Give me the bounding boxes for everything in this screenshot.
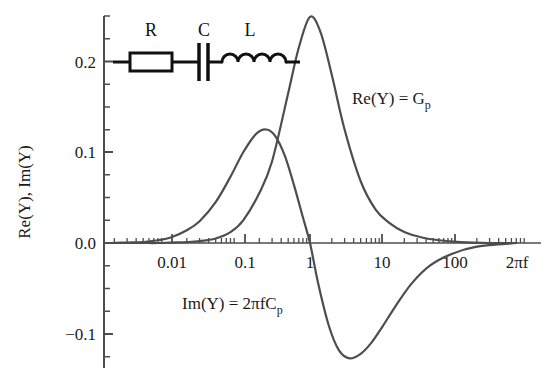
y-tick-label-3: −0.1	[65, 325, 96, 344]
y-tick-label-0: 0.2	[75, 53, 96, 72]
y-tick-label-2: 0.0	[75, 234, 96, 253]
resistor-label: R	[145, 20, 157, 40]
x-tick-label-3: 10	[374, 253, 391, 272]
plot-canvas: 0.2 0.1 0.0 −0.1 Re(Y), Im(Y) 0.01 0.1 1…	[0, 0, 549, 381]
annotation-re-text: Re(Y) = Gp	[352, 89, 431, 112]
capacitor-label: C	[198, 20, 210, 40]
y-axis-title: Re(Y), Im(Y)	[15, 145, 34, 238]
annotation-im-text: Im(Y) = 2πfCp	[182, 294, 283, 317]
inductor-label: L	[245, 20, 256, 40]
y-axis-title-text: Re(Y), Im(Y)	[15, 145, 34, 238]
x-tick-label-1: 0.1	[234, 253, 255, 272]
inductor-symbol	[222, 54, 286, 62]
annotation-im-main: Im(Y) = 2πfC	[182, 294, 277, 313]
annotation-im: Im(Y) = 2πfCp	[182, 294, 283, 317]
figure-root: 0.2 0.1 0.0 −0.1 Re(Y), Im(Y) 0.01 0.1 1…	[0, 0, 549, 381]
x-tick-labels: 0.01 0.1 1 10 100 2πf	[157, 253, 529, 272]
curve-re-y	[111, 16, 516, 243]
circuit-diagram-inset: R C L	[113, 20, 300, 81]
resistor-symbol	[130, 53, 172, 71]
y-tick-labels: 0.2 0.1 0.0 −0.1	[65, 53, 96, 344]
x-tick-label-0: 0.01	[157, 253, 187, 272]
annotation-re: Re(Y) = Gp	[352, 89, 431, 112]
curve-im-y	[111, 129, 516, 358]
annotation-im-subscript: p	[277, 303, 283, 317]
x-axis-title-text: 2πf	[506, 253, 529, 272]
y-tick-label-1: 0.1	[75, 143, 96, 162]
annotation-re-subscript: p	[425, 98, 431, 112]
y-tick-marks	[104, 16, 113, 357]
annotation-re-main: Re(Y) = G	[352, 89, 425, 108]
